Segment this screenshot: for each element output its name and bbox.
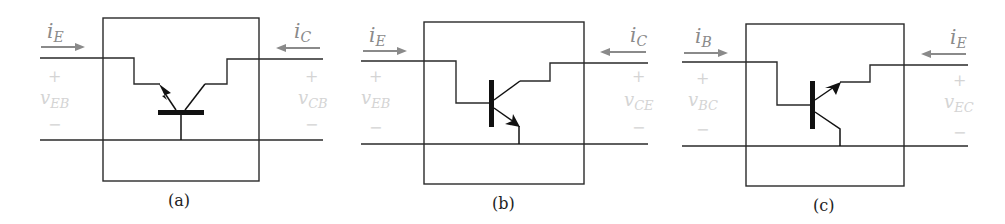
emitter-lead [494, 108, 514, 122]
plus-sign-left: + [696, 69, 709, 88]
arrow-right-icon [718, 49, 728, 57]
voltage-label-left: vBC [688, 89, 718, 113]
caption-b: (b) [492, 194, 515, 213]
panel-c: iB iE + vBC − + vEC − (c) [682, 24, 974, 215]
minus-sign-right: − [953, 123, 966, 142]
caption-c: (c) [813, 196, 834, 215]
current-label-right: iC [294, 19, 311, 45]
plus-sign-left: + [369, 67, 382, 86]
minus-sign-left: − [696, 120, 709, 139]
current-label-right: iC [630, 23, 647, 49]
voltage-label-right: vEC [944, 91, 974, 115]
collector-lead [815, 112, 840, 146]
minus-sign-left: − [48, 115, 61, 134]
arrow-left-icon [276, 44, 286, 52]
panel-b: iE iC + vEB − + vCE − (b) [361, 22, 654, 213]
arrow-right-icon [75, 43, 85, 51]
base-bar [489, 80, 494, 127]
two-port-box [746, 24, 904, 186]
voltage-label-right: vCB [298, 87, 328, 111]
voltage-label-right: vCE [624, 89, 654, 113]
collector-lead [185, 84, 205, 110]
current-label-left: iE [369, 23, 386, 49]
two-port-box [424, 22, 584, 184]
arrow-left-icon [600, 48, 610, 56]
emitter-arrow-icon [825, 82, 841, 95]
voltage-label-left: vEB [40, 87, 69, 111]
minus-sign-right: − [632, 118, 645, 137]
current-label-left: iB [695, 24, 712, 50]
base-bar [158, 110, 204, 115]
current-label-left: iE [47, 19, 64, 45]
plus-sign-left: + [48, 67, 61, 86]
emitter-arrow-icon [505, 114, 520, 127]
current-label-right: iE [950, 25, 967, 51]
two-port-box [103, 18, 259, 181]
plus-sign-right: + [632, 67, 645, 86]
caption-a: (a) [168, 191, 190, 210]
arrow-left-icon [921, 50, 931, 58]
base-bar [810, 81, 815, 129]
voltage-label-left: vEB [361, 87, 390, 111]
transistor-configurations-figure: iE iC + vEB − + vCB − (a) iE iC + vEB [0, 0, 1005, 224]
panel-a: iE iC + vEB − + vCB − (a) [40, 18, 328, 210]
collector-lead [494, 81, 520, 100]
plus-sign-right: + [953, 71, 966, 90]
plus-sign-right: + [305, 67, 318, 86]
arrow-right-icon [397, 47, 407, 55]
minus-sign-left: − [369, 118, 382, 137]
emitter-arrow-icon [159, 84, 171, 100]
emitter-lead [815, 87, 834, 100]
minus-sign-right: − [305, 115, 318, 134]
